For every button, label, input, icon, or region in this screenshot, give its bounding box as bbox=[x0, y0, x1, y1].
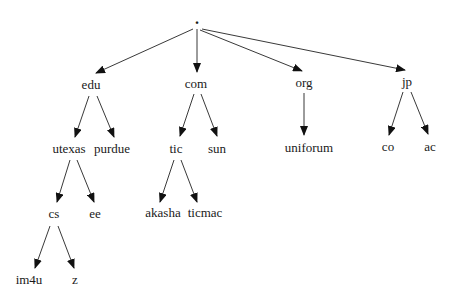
node-cs: cs bbox=[49, 207, 60, 220]
edge-root-to-jp bbox=[202, 29, 405, 70]
edge-edu-to-purdue bbox=[97, 96, 114, 137]
node-akasha: akasha bbox=[145, 206, 180, 219]
edge-edu-to-utexas bbox=[75, 96, 89, 137]
edge-tic-to-akasha bbox=[160, 160, 174, 202]
node-root: . bbox=[195, 11, 199, 27]
node-im4u: im4u bbox=[16, 273, 43, 286]
edge-root-to-edu bbox=[96, 29, 193, 73]
edge-com-to-sun bbox=[201, 94, 217, 136]
edge-cs-to-im4u bbox=[35, 226, 50, 268]
node-ee: ee bbox=[89, 207, 101, 220]
edge-cs-to-z bbox=[58, 226, 74, 268]
edge-jp-to-ac bbox=[411, 92, 428, 134]
edge-tic-to-ticmac bbox=[181, 160, 197, 202]
node-ac: ac bbox=[424, 140, 436, 153]
node-ticmac: ticmac bbox=[188, 206, 223, 219]
node-sun: sun bbox=[208, 142, 226, 155]
node-org: org bbox=[295, 76, 312, 89]
edge-root-to-org bbox=[200, 30, 302, 71]
node-co: co bbox=[382, 140, 394, 153]
node-z: z bbox=[72, 273, 78, 286]
node-jp: jp bbox=[402, 75, 412, 88]
node-com: com bbox=[185, 77, 207, 90]
node-purdue: purdue bbox=[94, 142, 130, 155]
dns-tree-diagram: .educomorgjputexaspurdueticsununiforumco… bbox=[0, 0, 458, 299]
edge-jp-to-co bbox=[389, 92, 403, 135]
node-edu: edu bbox=[82, 78, 101, 91]
node-tic: tic bbox=[170, 142, 183, 155]
node-utexas: utexas bbox=[52, 142, 85, 155]
edge-utexas-to-cs bbox=[57, 160, 70, 202]
edge-utexas-to-ee bbox=[77, 160, 94, 202]
node-uniforum: uniforum bbox=[285, 141, 333, 154]
edge-com-to-tic bbox=[180, 94, 194, 136]
